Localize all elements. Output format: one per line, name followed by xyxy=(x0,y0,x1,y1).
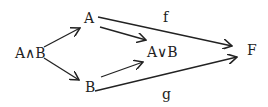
arrow-and-to-a xyxy=(44,28,80,47)
node-a: A xyxy=(84,11,94,25)
arrow-a-to-or xyxy=(100,27,146,40)
edge-label-f: f xyxy=(163,10,168,24)
node-f: F xyxy=(247,43,257,57)
edge-label-g: g xyxy=(162,87,171,101)
node-b: B xyxy=(85,80,95,94)
node-a-or-b: A∨B xyxy=(147,45,178,59)
node-a-and-b: A∧B xyxy=(15,46,46,60)
arrow-and-to-b xyxy=(44,58,79,80)
arrow-b-to-or xyxy=(101,62,143,77)
